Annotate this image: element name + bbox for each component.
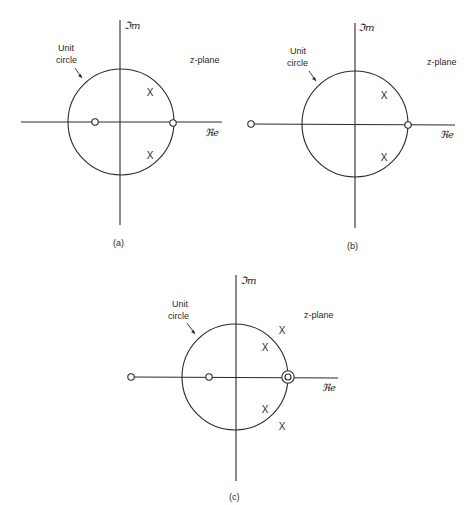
- pole-marker: X: [262, 342, 269, 353]
- unit-circle-label-line1: Unit: [58, 43, 75, 53]
- panel-caption: (a): [113, 238, 124, 248]
- pole-marker: X: [279, 325, 286, 336]
- double-zero-inner-ring: [285, 374, 291, 380]
- zero-marker: [206, 374, 212, 380]
- unit-circle-label-line2: circle: [56, 55, 77, 65]
- imaginary-axis-label: ℑm: [358, 22, 374, 33]
- pole-marker: X: [279, 421, 286, 432]
- pole-marker: X: [381, 152, 388, 163]
- unit-circle-label-line2: circle: [168, 311, 189, 321]
- panel-caption: (c): [229, 492, 240, 502]
- zero-marker: [128, 374, 134, 380]
- panel-b: ℑm ℜe z-plane Unit circle X X (b): [248, 22, 457, 251]
- unit-circle-label-line1: Unit: [290, 46, 307, 56]
- plane-label: z-plane: [427, 57, 457, 67]
- imaginary-axis-label: ℑm: [240, 275, 256, 286]
- pole-marker: X: [262, 404, 269, 415]
- zero-marker: [92, 119, 98, 125]
- real-axis-label: ℜe: [322, 382, 336, 393]
- panel-caption: (b): [347, 241, 358, 251]
- pole-marker: X: [147, 87, 154, 98]
- pole-marker: X: [381, 90, 388, 101]
- real-axis: [131, 377, 338, 378]
- zero-marker: [248, 121, 254, 127]
- real-axis-label: ℜe: [440, 129, 454, 140]
- zero-marker: [170, 120, 176, 126]
- imaginary-axis-label: ℑm: [124, 20, 140, 31]
- unit-circle-label-line1: Unit: [172, 299, 189, 309]
- panel-c: ℑm ℜe z-plane Unit circle X X X X (c): [128, 275, 338, 502]
- pole-zero-figure: ℑm ℜe z-plane Unit circle X X (a) ℑm ℜe …: [0, 0, 475, 505]
- unit-circle-label-line2: circle: [287, 58, 308, 68]
- zero-marker: [405, 122, 411, 128]
- plane-label: z-plane: [304, 310, 334, 320]
- real-axis-label: ℜe: [205, 127, 219, 138]
- plane-label: z-plane: [190, 55, 220, 65]
- real-axis: [251, 124, 455, 125]
- pole-marker: X: [147, 150, 154, 161]
- panel-a: ℑm ℜe z-plane Unit circle X X (a): [21, 20, 222, 248]
